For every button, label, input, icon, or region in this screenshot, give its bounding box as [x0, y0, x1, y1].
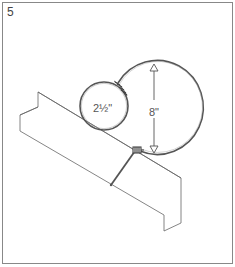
figure-border — [3, 3, 233, 264]
large-loop — [118, 60, 203, 154]
small-loop-label: 2½" — [93, 102, 112, 114]
support-wire — [111, 151, 135, 185]
figure-canvas: 5 2½" 8" — [0, 0, 235, 267]
wire-anchor-point — [110, 184, 112, 186]
wire-wrap-icon — [114, 81, 127, 96]
step-number: 5 — [7, 5, 14, 19]
large-loop-label: 8" — [149, 106, 159, 118]
